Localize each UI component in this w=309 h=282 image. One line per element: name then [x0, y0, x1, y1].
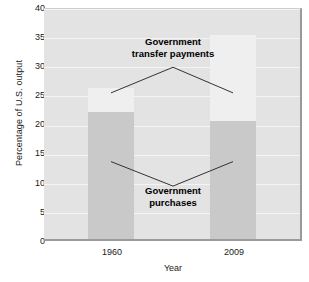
- x-tick-label-1960: 1960: [82, 247, 142, 257]
- x-tick-label-2009: 2009: [204, 247, 264, 257]
- y-axis-title: Percentage of U.S. output: [14, 28, 24, 198]
- annotation-government-purchases-line1: Government: [44, 185, 302, 197]
- y-tick-label-20: 20: [23, 120, 45, 129]
- leader-line-transfers: [111, 67, 233, 93]
- x-axis-title: Year: [44, 263, 302, 273]
- annotation-government-purchases-line2: purchases: [44, 197, 302, 209]
- y-tick-label-30: 30: [23, 62, 45, 71]
- leader-line-purchases: [111, 162, 233, 186]
- annotation-transfer-payments-line1: Government: [44, 36, 302, 48]
- chart-figure: Percentage of U.S. output 40 35 30 25 20…: [0, 0, 309, 282]
- annotation-transfer-payments-line2: transfer payments: [44, 48, 302, 60]
- annotation-government-purchases: Government purchases: [44, 185, 302, 209]
- annotation-transfer-payments: Government transfer payments: [44, 36, 302, 60]
- y-tick-label-25: 25: [23, 91, 45, 100]
- y-tick-label-35: 35: [23, 33, 45, 42]
- y-tick-label-0: 0: [23, 237, 45, 246]
- y-tick-label-10: 10: [23, 179, 45, 188]
- y-tick-label-5: 5: [23, 208, 45, 217]
- plot-area: Government transfer payments Government …: [44, 8, 302, 241]
- y-tick-label-40: 40: [23, 4, 45, 13]
- y-tick-label-15: 15: [23, 149, 45, 158]
